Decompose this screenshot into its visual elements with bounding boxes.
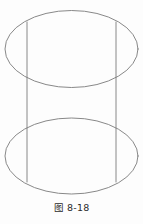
figure-page: 图 8-18 xyxy=(0,0,143,224)
top-ellipse xyxy=(5,11,138,88)
bottom-ellipse xyxy=(5,118,138,194)
cylinder-figure-drawing xyxy=(0,0,143,200)
figure-caption: 图 8-18 xyxy=(0,201,143,214)
